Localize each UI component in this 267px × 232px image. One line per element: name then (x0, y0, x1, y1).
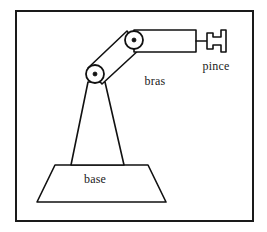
label-pince: pince (203, 59, 230, 73)
shoulder-joint (86, 65, 104, 83)
label-base: base (84, 172, 106, 186)
robot-arm-diagram: base bras pince (0, 0, 267, 232)
elbow-joint (125, 31, 143, 49)
robot-column (71, 82, 124, 165)
gripper-jaw (207, 30, 226, 52)
label-bras: bras (145, 74, 166, 88)
shoulder-joint-hub (93, 72, 97, 76)
diagram-canvas: base bras pince (0, 0, 267, 232)
elbow-joint-hub (132, 38, 136, 42)
